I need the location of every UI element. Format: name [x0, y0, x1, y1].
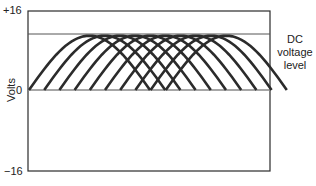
pulse-curve	[151, 36, 272, 90]
pulse-curve	[44, 36, 165, 90]
dc-label-line3: level	[276, 59, 314, 72]
pulse-curves	[29, 36, 287, 90]
pulse-curve	[120, 36, 241, 90]
dc-label-line2: voltage	[276, 46, 314, 59]
y-tick-top: +16	[3, 4, 22, 16]
pulse-curve	[135, 36, 256, 90]
pulse-curve	[166, 36, 287, 90]
pulse-curve	[59, 36, 180, 90]
chart-figure	[0, 0, 316, 186]
pulse-curve	[29, 36, 150, 90]
pulse-curve	[105, 36, 226, 90]
pulse-curve	[90, 36, 211, 90]
y-tick-bottom: −16	[4, 165, 23, 177]
dc-label-line1: DC	[276, 33, 314, 46]
dc-level-annotation: DC voltage level	[276, 33, 314, 72]
pulse-curve	[75, 36, 196, 90]
y-axis-label: Volts	[5, 73, 17, 107]
